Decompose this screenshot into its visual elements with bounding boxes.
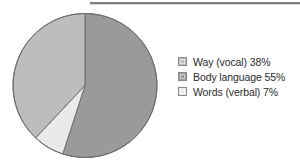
legend-swatch-icon — [178, 72, 187, 81]
legend-swatch-icon — [178, 57, 187, 66]
legend-item-label: Way (vocal) 38% — [193, 56, 270, 68]
legend-item[interactable]: Way (vocal) 38% — [178, 54, 298, 69]
pie-chart-svg — [11, 12, 159, 159]
legend-item-label: Body language 55% — [193, 71, 285, 83]
top-horizontal-rule-shadow — [90, 4, 300, 5]
pie-chart — [11, 12, 159, 159]
pie-slices — [13, 13, 157, 157]
legend-item-label: Words (verbal) 7% — [193, 86, 278, 98]
legend-item[interactable]: Words (verbal) 7% — [178, 84, 298, 99]
legend-item[interactable]: Body language 55% — [178, 69, 298, 84]
legend-swatch-icon — [178, 87, 187, 96]
pie-chart-figure: Way (vocal) 38% Body language 55% Words … — [0, 0, 300, 163]
legend: Way (vocal) 38% Body language 55% Words … — [178, 54, 298, 99]
